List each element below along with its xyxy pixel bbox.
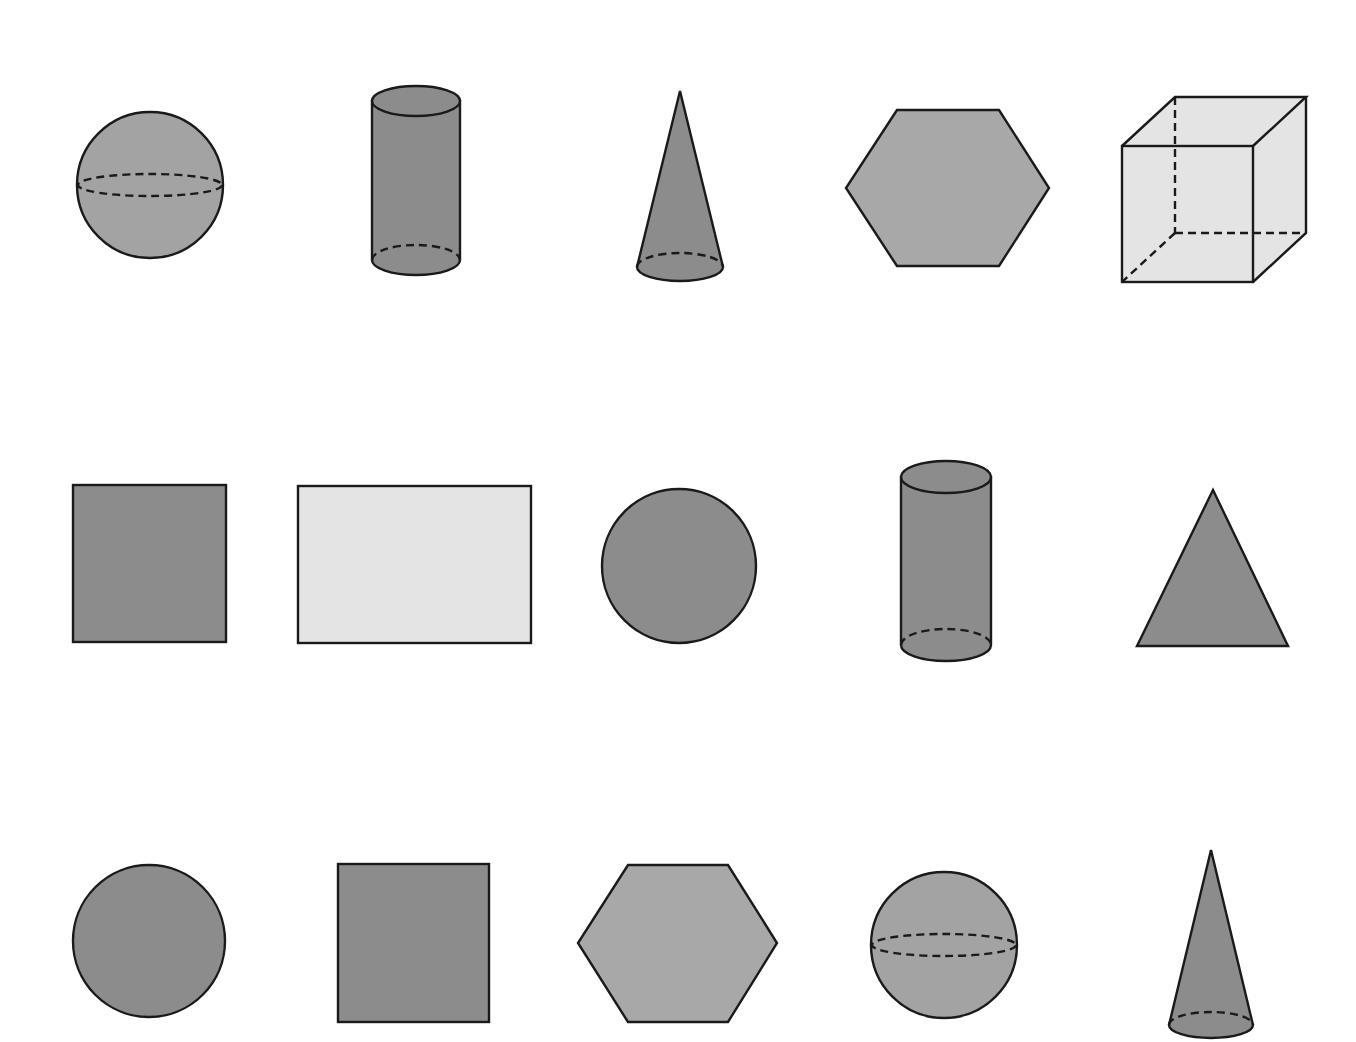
cone-r3c5: [1169, 850, 1253, 1038]
hexagon-r1c4: [846, 110, 1049, 266]
triangle-r2c5: [1137, 490, 1288, 646]
cylinder-r2c4: [901, 461, 991, 661]
hexagon-r3c3: [578, 865, 777, 1022]
cylinder-r1c2: [372, 86, 460, 275]
circle-r2c3: [602, 489, 756, 643]
square-r3c2: [338, 864, 489, 1022]
sphere-r1c1: [77, 112, 223, 258]
square-r2c1: [73, 485, 226, 642]
cone-r1c3: [637, 91, 723, 281]
sphere-r3c4: [871, 872, 1017, 1018]
circle-r3c1: [73, 865, 225, 1017]
rectangle-r2c2: [298, 486, 531, 643]
shapes-canvas: [0, 0, 1356, 1042]
cube-r1c5: [1122, 97, 1306, 282]
